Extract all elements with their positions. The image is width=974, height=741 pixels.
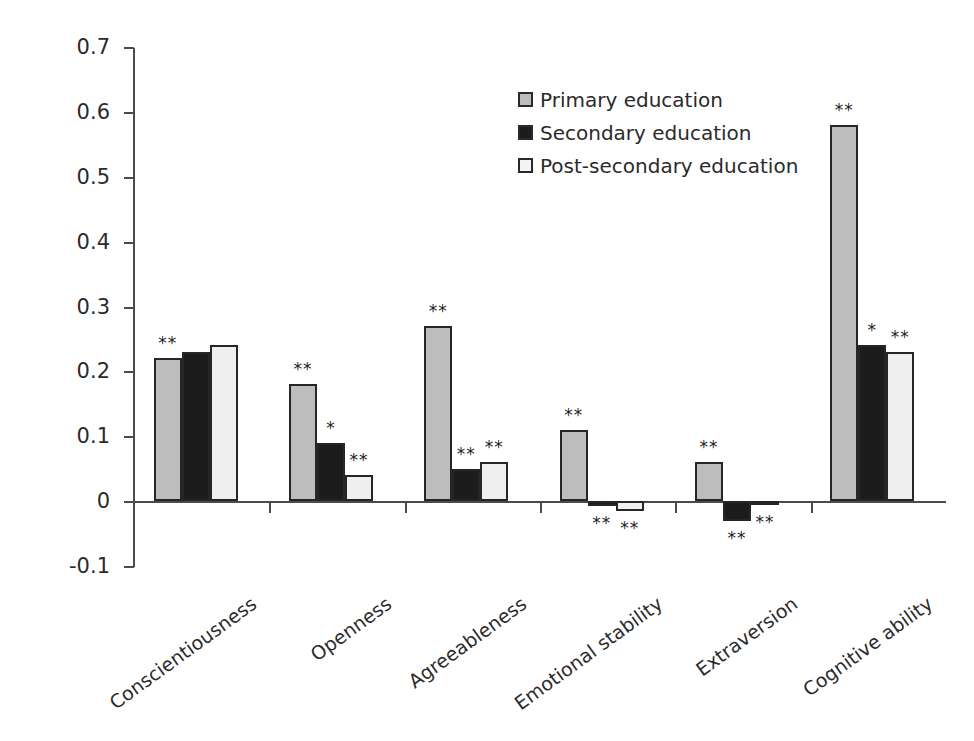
legend-label-secondary: Secondary education (540, 121, 752, 145)
y-tick: 0.1 (124, 436, 134, 438)
legend: Primary education Secondary education Po… (518, 83, 798, 182)
bar (588, 501, 616, 506)
bar (210, 345, 238, 501)
bar (723, 501, 751, 520)
group-tick (675, 502, 677, 513)
significance-marker: ** (485, 439, 504, 456)
y-tick: 0 (124, 501, 134, 503)
significance-marker: ** (592, 515, 611, 532)
group-tick (540, 502, 542, 513)
y-tick-label: 0.2 (40, 359, 110, 383)
significance-marker: ** (700, 439, 719, 456)
bar (830, 125, 858, 501)
significance-marker: ** (756, 514, 775, 531)
bar (424, 326, 452, 501)
group-tick (269, 502, 271, 513)
bar (480, 462, 508, 501)
significance-marker: ** (294, 361, 313, 378)
y-tick: 0.6 (124, 112, 134, 114)
legend-item-primary[interactable]: Primary education (518, 83, 798, 116)
bar (616, 501, 644, 511)
significance-marker: ** (429, 303, 448, 320)
bar (317, 443, 345, 501)
y-tick-label: 0.4 (40, 230, 110, 254)
significance-marker: * (326, 420, 336, 437)
y-tick: 0.7 (124, 47, 134, 49)
significance-marker: ** (891, 329, 910, 346)
significance-marker: ** (564, 407, 583, 424)
y-tick-label: -0.1 (40, 554, 110, 578)
legend-swatch-icon-primary (518, 92, 533, 107)
y-tick: 0.3 (124, 307, 134, 309)
significance-marker: ** (835, 102, 854, 119)
bar (154, 358, 182, 501)
bar (289, 384, 317, 501)
y-tick-label: 0.3 (40, 295, 110, 319)
significance-marker: ** (158, 335, 177, 352)
group-tick (811, 502, 813, 513)
y-tick-label: 0.7 (40, 35, 110, 59)
y-tick-label: 0.1 (40, 424, 110, 448)
legend-swatch-icon-post-secondary (518, 158, 533, 173)
group-tick (405, 502, 407, 513)
bar (182, 352, 210, 501)
legend-item-post-secondary[interactable]: Post-secondary education (518, 149, 798, 182)
bar-chart: Correlation 0.70.60.50.40.30.20.10-0.1 *… (0, 0, 974, 741)
y-tick: 0.5 (124, 177, 134, 179)
bar (886, 352, 914, 501)
legend-swatch-icon-secondary (518, 125, 533, 140)
y-tick-label: 0 (40, 489, 110, 513)
significance-marker: ** (728, 530, 747, 547)
bar (695, 462, 723, 501)
significance-marker: ** (620, 520, 639, 537)
legend-label-post-secondary: Post-secondary education (540, 154, 798, 178)
y-tick: 0.2 (124, 371, 134, 373)
bar (751, 501, 779, 505)
significance-marker: * (868, 322, 878, 339)
bar (560, 430, 588, 501)
bar (345, 475, 373, 501)
y-tick-label: 0.6 (40, 100, 110, 124)
y-tick-label: 0.5 (40, 165, 110, 189)
y-tick: -0.1 (124, 566, 134, 568)
significance-marker: ** (457, 446, 476, 463)
y-tick: 0.4 (124, 242, 134, 244)
significance-marker: ** (350, 452, 369, 469)
bar (452, 469, 480, 501)
bar (858, 345, 886, 501)
legend-label-primary: Primary education (540, 88, 723, 112)
legend-item-secondary[interactable]: Secondary education (518, 116, 798, 149)
